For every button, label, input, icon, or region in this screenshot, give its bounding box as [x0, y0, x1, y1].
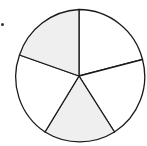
fraction-circle [0, 0, 147, 146]
